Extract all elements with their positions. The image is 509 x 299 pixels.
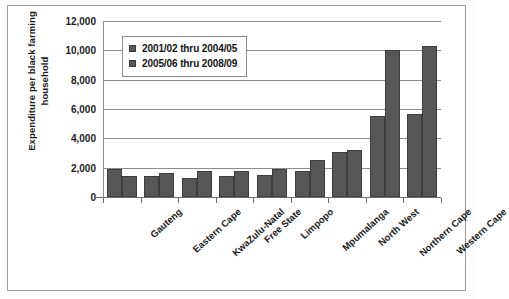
y-axis-tick-label: 0 [44,192,96,203]
bar-group [366,21,404,197]
x-axis-tick-mark [291,198,292,203]
bar[interactable] [332,152,347,197]
x-axis-tick-mark [328,198,329,203]
bar[interactable] [310,160,325,197]
y-axis-tick-labels: 02,0004,0006,0008,00010,00012,000 [40,0,96,299]
bar-group [253,21,291,197]
x-axis-tick-mark [366,198,367,203]
bar[interactable] [182,178,197,197]
y-axis-tick-label: 10,000 [44,45,96,56]
legend-item-series-2[interactable]: 2005/06 thru 2008/09 [129,56,237,71]
bar[interactable] [422,46,437,197]
bar[interactable] [407,114,422,197]
x-axis-tick-mark [103,198,104,203]
bar[interactable] [347,150,362,197]
x-axis-tick-mark [178,198,179,203]
x-axis-tick-mark [403,198,404,203]
y-axis-tick-label: 4,000 [44,133,96,144]
y-axis-tick-label: 6,000 [44,104,96,115]
bar-group [403,21,441,197]
bar-group [291,21,329,197]
legend-swatch-icon [129,45,136,52]
x-axis-tick-mark [216,198,217,203]
x-axis-tick-mark [141,198,142,203]
chart-legend: 2001/02 thru 2004/05 2005/06 thru 2008/0… [122,36,247,77]
bar[interactable] [385,50,400,197]
x-axis-line [96,197,441,198]
y-axis-tick-label: 2,000 [44,162,96,173]
bar[interactable] [159,173,174,197]
bar[interactable] [257,175,272,197]
legend-swatch-icon [129,60,136,67]
bar[interactable] [272,169,287,197]
x-axis-tick-mark [441,198,442,203]
bar[interactable] [122,176,137,197]
bar[interactable] [219,176,234,197]
y-axis-tick-label: 8,000 [44,74,96,85]
legend-item-series-1[interactable]: 2001/02 thru 2004/05 [129,41,237,56]
bar[interactable] [295,171,310,197]
bar[interactable] [370,116,385,197]
bar[interactable] [234,171,249,197]
bar[interactable] [144,176,159,197]
y-axis-tick-label: 12,000 [44,16,96,27]
legend-label-series-2: 2005/06 thru 2008/09 [142,58,237,69]
legend-label-series-1: 2001/02 thru 2004/05 [142,43,237,54]
bar[interactable] [107,169,122,197]
bar-group [328,21,366,197]
bar[interactable] [197,171,212,197]
x-axis-tick-mark [253,198,254,203]
